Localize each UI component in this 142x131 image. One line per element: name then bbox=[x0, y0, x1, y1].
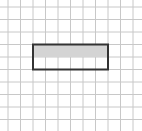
grid-diagram bbox=[0, 0, 142, 131]
grid-lines bbox=[0, 0, 142, 131]
shaded-region bbox=[33, 45, 108, 58]
